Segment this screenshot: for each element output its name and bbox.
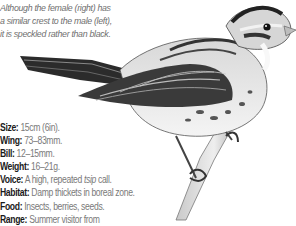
fact-wing: Wing: 73–83mm. xyxy=(0,134,172,147)
caption-line: it is speckled rather than black. xyxy=(0,27,138,40)
caption-line: a similar crest to the male (left), xyxy=(0,14,138,27)
fact-weight: Weight: 16–21g. xyxy=(0,160,172,173)
fact-bill: Bill: 12–15mm. xyxy=(0,147,172,160)
caption-line: Although the female (right) has xyxy=(0,1,138,14)
fact-voice: Voice: A high, repeated tsip call. xyxy=(0,173,172,186)
fact-size: Size: 15cm (6in). xyxy=(0,121,172,134)
fact-range: Range: Summer visitor from xyxy=(0,213,172,226)
image-caption: Although the female (right) has a simila… xyxy=(0,1,138,41)
eye xyxy=(263,23,270,30)
fact-food: Food: Insects, berries, seeds. xyxy=(0,200,172,213)
fact-habitat: Habitat: Damp thickets in boreal zone. xyxy=(0,186,172,199)
species-facts: Size: 15cm (6in). Wing: 73–83mm. Bill: 1… xyxy=(0,121,172,226)
